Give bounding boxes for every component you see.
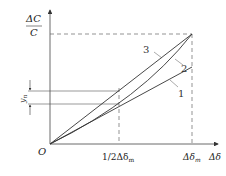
origin-label: O: [38, 146, 46, 157]
curve-1-label: 1: [178, 88, 184, 99]
curve-3: [50, 34, 192, 144]
yn-label: yn: [18, 94, 28, 104]
diagram-canvas: 3 2 1 ΔC C O 1/2Δδm Δδm Δδ yn: [0, 0, 226, 176]
curve-2-label: 2: [181, 63, 187, 74]
y-axis-label-den: C: [30, 27, 38, 38]
curve-1: [50, 67, 192, 144]
x-tick-max: Δδm: [182, 152, 201, 163]
x-tick-half: 1/2Δδm: [102, 152, 134, 163]
label-1-leader: [170, 80, 178, 87]
x-axis-label: Δδ: [208, 152, 221, 162]
y-axis-label-num: ΔC: [25, 13, 41, 24]
label-3-leader: [154, 52, 162, 58]
curve-3-label: 3: [143, 44, 149, 55]
